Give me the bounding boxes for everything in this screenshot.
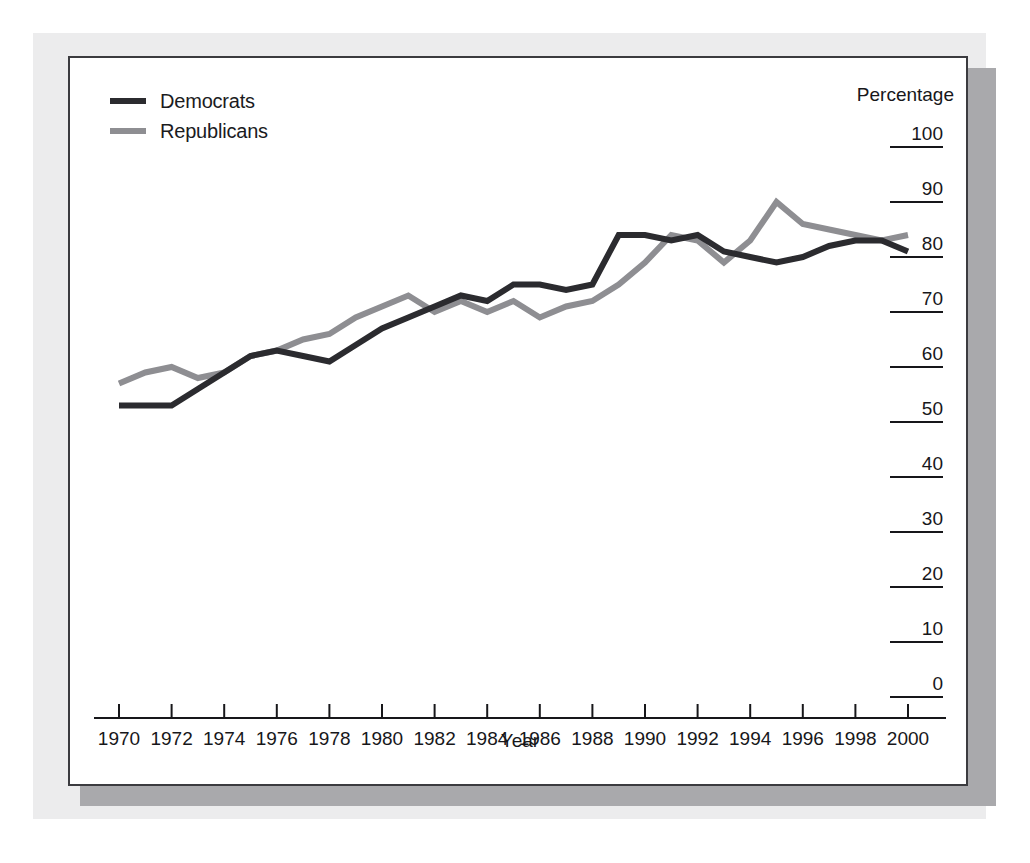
data-series-group: [119, 202, 908, 406]
series-line-democrats: [119, 235, 908, 406]
x-tick-label-1972: 1972: [150, 728, 192, 750]
plot-area: [70, 58, 970, 788]
x-tick-label-1994: 1994: [729, 728, 771, 750]
y-tick-label-90: 90: [886, 178, 943, 200]
y-tick-label-70: 70: [886, 288, 943, 310]
series-line-republicans: [119, 202, 908, 384]
x-tick-label-1988: 1988: [571, 728, 613, 750]
x-tick-label-1980: 1980: [361, 728, 403, 750]
x-tick-label-1976: 1976: [256, 728, 298, 750]
x-tick-label-1982: 1982: [413, 728, 455, 750]
chart-page: Democrats Republicans Percentage Year 01…: [0, 0, 1030, 863]
x-tick-label-1974: 1974: [203, 728, 245, 750]
y-tick-label-60: 60: [886, 343, 943, 365]
y-tick-label-20: 20: [886, 563, 943, 585]
chart-card: Democrats Republicans Percentage Year 01…: [68, 56, 968, 786]
x-tick-label-2000: 2000: [887, 728, 929, 750]
y-axis-ticks: [890, 147, 943, 697]
y-tick-label-30: 30: [886, 508, 943, 530]
x-tick-label-1990: 1990: [624, 728, 666, 750]
x-axis: [94, 704, 946, 718]
y-tick-label-10: 10: [886, 618, 943, 640]
x-tick-label-1978: 1978: [308, 728, 350, 750]
y-tick-label-40: 40: [886, 453, 943, 475]
y-tick-label-50: 50: [886, 398, 943, 420]
x-tick-label-1984: 1984: [466, 728, 508, 750]
y-tick-label-0: 0: [886, 673, 943, 695]
x-tick-label-1996: 1996: [782, 728, 824, 750]
x-tick-label-1986: 1986: [519, 728, 561, 750]
x-tick-label-1998: 1998: [834, 728, 876, 750]
x-tick-label-1970: 1970: [98, 728, 140, 750]
x-tick-label-1992: 1992: [676, 728, 718, 750]
y-tick-label-100: 100: [886, 123, 943, 145]
y-tick-label-80: 80: [886, 233, 943, 255]
